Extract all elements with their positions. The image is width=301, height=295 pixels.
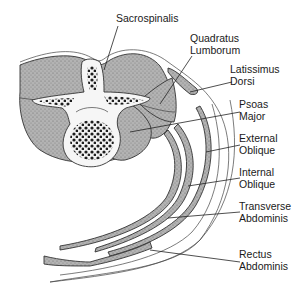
label-rectus-abdominis: Rectus Abdominis xyxy=(239,248,288,272)
anatomy-diagram: Sacrospinalis Quadratus Lumborum Latissi… xyxy=(0,0,301,295)
label-latissimus-dorsi: Latissimus Dorsi xyxy=(230,63,283,87)
label-internal-oblique: Internal Oblique xyxy=(239,166,277,190)
leader-internal-oblique xyxy=(188,178,240,186)
label-psoas-major: Psoas Major xyxy=(239,98,271,122)
label-transverse-abdominis: Transverse Abdominis xyxy=(239,200,294,224)
leader-rectus-abdominis xyxy=(150,250,240,262)
label-sacrospinalis: Sacrospinalis xyxy=(116,12,178,24)
label-quadratus-lumborum: Quadratus Lumborum xyxy=(190,32,242,56)
leader-transverse-abdominis xyxy=(168,212,240,218)
label-external-oblique: External Oblique xyxy=(239,132,280,156)
